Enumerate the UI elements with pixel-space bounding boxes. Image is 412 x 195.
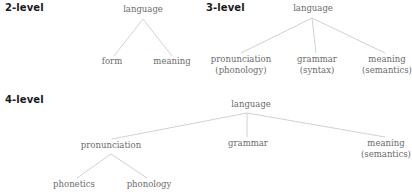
node-label: meaning: [153, 56, 190, 67]
node-label: phonology: [127, 179, 172, 190]
node-3level-pronunciation: pronunciation (phonology): [211, 54, 271, 75]
node-4level-meaning: meaning (semantics): [361, 138, 411, 159]
heading-2-level: 2-level: [5, 2, 44, 13]
edge-3level-grammar: [312, 18, 316, 53]
node-4level-phonology: phonology: [127, 179, 172, 190]
edge-4level-phonology: [111, 154, 147, 178]
node-label: grammar: [228, 138, 268, 149]
node-4level-grammar: grammar: [228, 138, 268, 149]
heading-4-level: 4-level: [5, 94, 44, 105]
node-4level-pronunciation: pronunciation: [81, 140, 141, 151]
node-3level-grammar: grammar (syntax): [297, 54, 337, 75]
heading-3-level: 3-level: [206, 2, 245, 13]
node-sublabel: (semantics): [362, 65, 412, 76]
edge-4level-phonetics: [77, 154, 111, 178]
node-label: phonetics: [53, 179, 95, 190]
edge-4level-pronunciation: [112, 113, 247, 139]
node-4level-root: language: [231, 99, 271, 110]
edge-4level-meaning: [247, 113, 385, 137]
edge-3level-pronunciation: [241, 18, 312, 53]
edge-2level-meaning: [143, 19, 172, 56]
node-label: meaning: [361, 138, 411, 149]
node-label: grammar: [297, 54, 337, 65]
node-sublabel: (phonology): [211, 65, 271, 76]
node-label: pronunciation: [211, 54, 271, 65]
node-label: form: [102, 56, 122, 67]
node-label: language: [231, 99, 271, 110]
edge-2level-form: [114, 19, 143, 56]
node-3level-root: language: [293, 3, 333, 14]
node-label: pronunciation: [81, 140, 141, 151]
node-2level-root: language: [123, 4, 163, 15]
node-2level-meaning: meaning: [153, 56, 190, 67]
node-label: language: [293, 3, 333, 14]
node-2level-form: form: [102, 56, 122, 67]
node-3level-meaning: meaning (semantics): [362, 54, 412, 75]
edge-3level-meaning: [312, 18, 385, 53]
node-sublabel: (semantics): [361, 149, 411, 160]
node-4level-phonetics: phonetics: [53, 179, 95, 190]
node-sublabel: (syntax): [297, 65, 337, 76]
node-label: meaning: [362, 54, 412, 65]
node-label: language: [123, 4, 163, 15]
